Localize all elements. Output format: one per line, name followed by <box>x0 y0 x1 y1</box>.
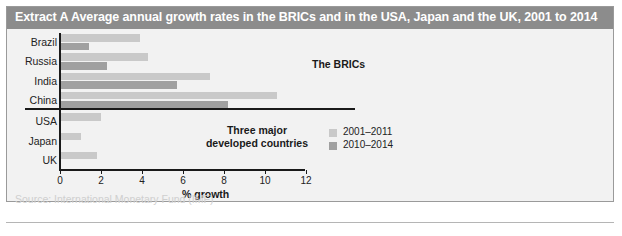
y-axis-category-label: China <box>9 94 57 106</box>
bar-russia-series1 <box>60 53 148 61</box>
legend-label-2001-2011: 2001–2011 <box>343 126 392 137</box>
chart-header-bar: Extract A Average annual growth rates in… <box>7 7 613 29</box>
x-tick-mark <box>183 170 184 174</box>
group-divider-line <box>25 108 355 110</box>
x-tick-label: 8 <box>221 175 227 186</box>
bar-usa-series1 <box>60 113 101 121</box>
x-tick-mark <box>101 170 102 174</box>
plot-area: BrazilRussiaIndiaChinaUSAJapanUK 0246810… <box>7 29 615 203</box>
bar-india-series1 <box>60 73 210 81</box>
brics-group-annotation: The BRICs <box>312 58 365 70</box>
x-tick-label: 0 <box>57 175 63 186</box>
bottom-divider <box>6 222 614 223</box>
x-tick-mark <box>265 170 266 174</box>
page-title: Extract A Average annual growth rates in… <box>15 10 597 24</box>
bar-japan-series1 <box>60 133 81 141</box>
x-tick-label: 6 <box>180 175 186 186</box>
x-tick-mark <box>60 170 61 174</box>
y-axis-category-label: UK <box>9 154 57 166</box>
legend-swatch-icon-2001-2011 <box>329 129 337 137</box>
x-tick-label: 2 <box>98 175 104 186</box>
developed-group-annotation: Three major developed countries <box>192 124 322 150</box>
bar-russia-series2 <box>60 62 107 70</box>
x-tick-mark <box>306 170 307 174</box>
x-tick-mark <box>224 170 225 174</box>
y-axis-category-labels: BrazilRussiaIndiaChinaUSAJapanUK <box>7 29 57 169</box>
y-axis-category-label: Russia <box>9 55 57 67</box>
bar-china-series1 <box>60 92 277 100</box>
y-axis-category-label: USA <box>9 115 57 127</box>
legend-label-2010-2014: 2010–2014 <box>343 139 393 150</box>
y-axis-line <box>59 33 61 170</box>
bar-brazil-series1 <box>60 34 140 42</box>
chart-figure: Extract A Average annual growth rates in… <box>6 6 614 202</box>
x-tick-label: 4 <box>139 175 145 186</box>
bar-brazil-series2 <box>60 43 89 51</box>
developed-group-annotation-line2: developed countries <box>192 137 322 150</box>
bar-india-series2 <box>60 81 177 89</box>
developed-group-annotation-line1: Three major <box>192 124 322 137</box>
y-axis-category-label: India <box>9 75 57 87</box>
y-axis-category-label: Brazil <box>9 36 57 48</box>
x-tick-label: 12 <box>300 175 311 186</box>
x-axis-line <box>59 169 305 171</box>
bar-china-series2 <box>60 101 228 109</box>
x-tick-mark <box>142 170 143 174</box>
x-tick-label: 10 <box>259 175 270 186</box>
source-note: Source: International Monetary Fund (IMF… <box>15 193 213 205</box>
bar-uk-series1 <box>60 152 97 160</box>
legend-swatch-icon-2010-2014 <box>329 142 337 150</box>
y-axis-category-label: Japan <box>9 135 57 147</box>
